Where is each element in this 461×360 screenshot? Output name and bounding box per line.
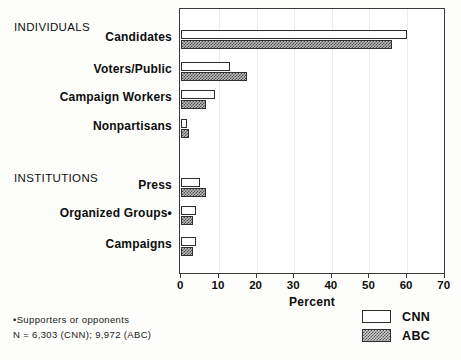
bar-abc [181,247,192,256]
legend-swatch-abc [362,329,391,342]
chart-legend: CNNABC [362,307,430,345]
gridline [332,9,333,273]
plot-area [179,8,445,274]
footnote-supporters: •Supporters or opponents [13,312,151,327]
bar-abc [181,216,192,225]
bar-cnn [181,178,200,187]
footnote-block: •Supporters or opponents N = 6,303 (CNN)… [13,312,151,342]
x-tick-label: 50 [362,279,375,291]
gridline [219,9,220,273]
footnote-sample-size: N = 6,303 (CNN); 9,972 (ABC) [13,327,151,342]
legend-label-cnn: CNN [402,310,430,324]
bar-abc [181,72,247,81]
category-label-campaign-workers: Campaign Workers [60,90,172,104]
legend-label-abc: ABC [402,329,430,343]
bar-abc [181,129,189,138]
category-label-column: INDIVIDUALSCandidatesVoters/PublicCampai… [0,0,179,282]
x-tick-label: 70 [437,279,450,291]
bar-cnn [181,119,187,128]
bar-abc [181,188,205,197]
x-tick-label: 20 [249,279,262,291]
bar-abc [181,100,205,109]
x-tick-mark [368,274,369,278]
x-tick-mark [444,274,445,278]
x-tick-label: 40 [324,279,337,291]
legend-item-cnn: CNN [362,307,430,326]
gridline [257,9,258,273]
category-label-candidates: Candidates [105,30,172,44]
x-axis: Percent 010203040506070 [179,274,445,308]
x-tick-mark [331,274,332,278]
legend-swatch-cnn [362,310,391,323]
x-tick-label: 30 [287,279,300,291]
x-tick-mark [180,274,181,278]
footnote-marker: • [168,206,172,220]
category-label-voters-public: Voters/Public [94,62,172,76]
bar-cnn [181,206,196,215]
x-tick-label: 10 [212,279,225,291]
legend-item-abc: ABC [362,326,430,345]
category-label-nonpartisans: Nonpartisans [93,119,172,133]
x-tick-mark [256,274,257,278]
group-heading-individuals: INDIVIDUALS [14,21,90,33]
x-tick-mark [406,274,407,278]
category-label-press: Press [138,178,172,192]
bar-abc [181,40,392,49]
category-label-campaigns: Campaigns [106,237,172,251]
category-label-organized-groups: Organized Groups• [60,206,172,220]
bar-cnn [181,62,230,71]
gridline [294,9,295,273]
x-tick-label: 0 [177,279,183,291]
gridline [407,9,408,273]
x-tick-mark [293,274,294,278]
gridline [369,9,370,273]
x-tick-mark [218,274,219,278]
bar-cnn [181,237,196,246]
bar-cnn [181,90,215,99]
group-heading-institutions: INSTITUTIONS [14,172,98,184]
bar-cnn [181,30,407,39]
x-tick-label: 60 [400,279,413,291]
